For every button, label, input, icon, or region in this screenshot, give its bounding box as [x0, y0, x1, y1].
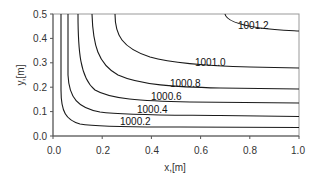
y-tick-label: 0.3: [33, 57, 47, 68]
contour-chart: 0.0 0.1 0.2 0.3 0.4 0.5 0.0 0.2 0.4 0.6 …: [0, 0, 319, 184]
plot-frame: [53, 14, 299, 136]
x-tick-labels: 0.0 0.2 0.4 0.6 0.8 1.0: [47, 145, 305, 156]
contour-label-1000-2: 1000.2: [120, 116, 151, 127]
x-tick-label: 0.8: [243, 145, 257, 156]
contour-lines: [61, 14, 299, 128]
y-tick-label: 0.4: [33, 33, 47, 44]
y-axis-title: y,[m]: [15, 64, 26, 85]
y-tick-labels: 0.0 0.1 0.2 0.3 0.4 0.5: [33, 9, 47, 142]
contour-label-1001-2: 1001.2: [238, 20, 269, 31]
y-tick-label: 0.1: [33, 106, 47, 117]
x-tick-label: 1.0: [291, 145, 305, 156]
contour-label-1001-0: 1001.0: [195, 57, 226, 68]
y-tick-label: 0.0: [33, 131, 47, 142]
contour-label-1000-4: 1000.4: [137, 104, 168, 115]
contour-line-1000-2: [61, 14, 299, 128]
y-tick-label: 0.2: [33, 82, 47, 93]
contour-label-1000-8: 1000.8: [170, 78, 201, 89]
y-tick-label: 0.5: [33, 9, 47, 20]
contour-label-1000-6: 1000.6: [151, 91, 182, 102]
x-tick-label: 0.4: [145, 145, 159, 156]
x-tick-label: 0.2: [96, 145, 110, 156]
x-tick-label: 0.6: [194, 145, 208, 156]
x-axis-title: x,[m]: [164, 162, 186, 173]
contour-labels: 1000.2 1000.4 1000.6 1000.8 1001.0 1001.…: [120, 20, 269, 127]
x-tick-label: 0.0: [47, 145, 61, 156]
